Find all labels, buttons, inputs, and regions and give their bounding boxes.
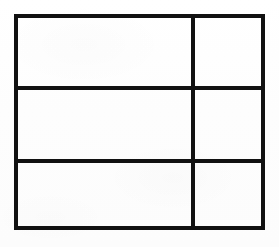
grid-diagram	[0, 0, 279, 247]
cell-row3-col1[interactable]	[16, 163, 191, 228]
cell-row3-col2[interactable]	[195, 163, 263, 228]
figure-canvas	[0, 0, 279, 247]
cell-row2-col2[interactable]	[195, 90, 263, 159]
cell-row2-col1[interactable]	[16, 90, 191, 159]
cell-row1-col2[interactable]	[195, 16, 263, 86]
cell-row1-col1[interactable]	[16, 16, 191, 86]
grid-cells	[16, 16, 263, 228]
